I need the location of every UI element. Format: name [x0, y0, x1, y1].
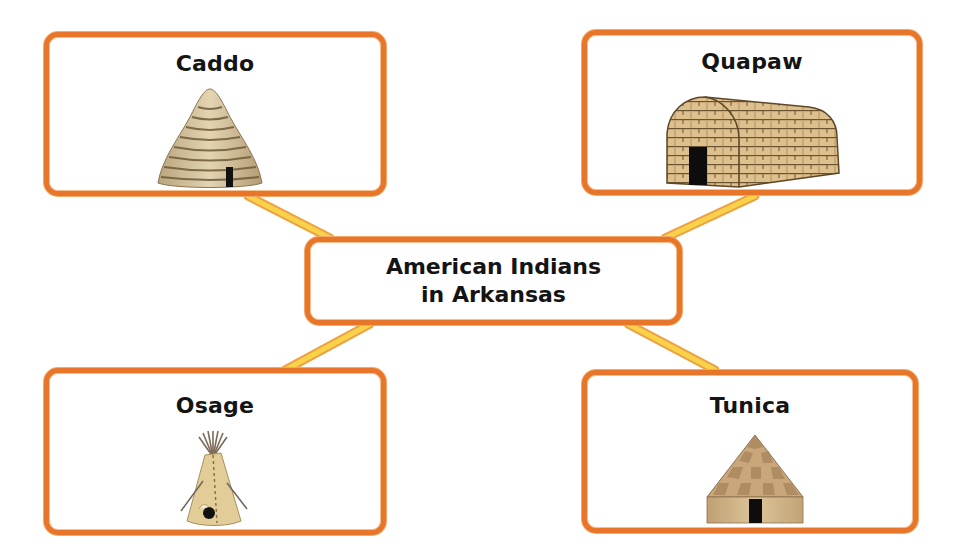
node-quapaw: Quapaw: [582, 30, 922, 195]
node-tunica: Tunica: [582, 370, 918, 533]
center-topic-line1: American Indians: [386, 253, 601, 281]
beehive-grass-house-icon: [154, 87, 266, 189]
longhouse-icon: [659, 93, 843, 189]
center-topic-line2: in Arkansas: [421, 281, 566, 309]
node-tunica-label: Tunica: [587, 393, 913, 418]
node-osage-label: Osage: [49, 393, 381, 418]
node-quapaw-label: Quapaw: [587, 49, 917, 74]
node-caddo: Caddo: [44, 32, 386, 196]
node-caddo-label: Caddo: [49, 51, 381, 76]
tipi-icon: [179, 431, 249, 531]
center-topic: American Indians in Arkansas: [305, 237, 682, 325]
thatched-hut-icon: [705, 433, 805, 525]
node-osage: Osage: [44, 368, 386, 535]
